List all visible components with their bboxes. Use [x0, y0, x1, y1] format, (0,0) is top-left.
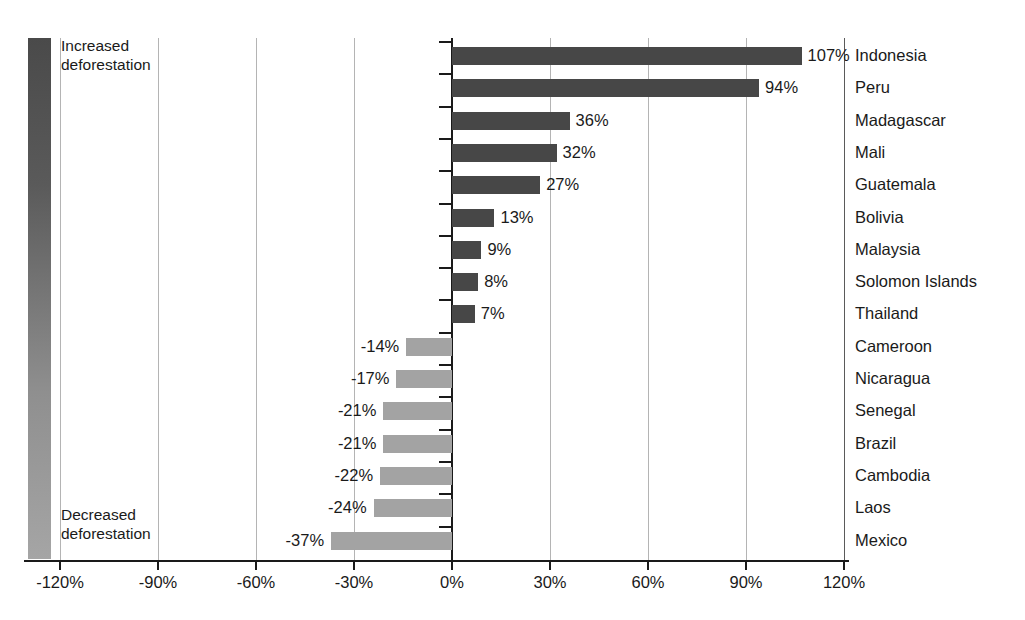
- category-tick: [439, 203, 452, 205]
- bar-row[interactable]: 32%Mali: [0, 138, 1025, 170]
- bar-negative[interactable]: [406, 338, 452, 356]
- category-tick: [439, 170, 452, 172]
- bar-row[interactable]: -17%Nicaragua: [0, 364, 1025, 396]
- category-tick: [439, 364, 452, 366]
- category-label: Mexico: [855, 530, 907, 551]
- bar-row[interactable]: -24%Laos: [0, 493, 1025, 525]
- category-tick: [439, 106, 452, 108]
- bar-negative[interactable]: [396, 370, 452, 388]
- category-label: Laos: [855, 497, 891, 518]
- category-label: Nicaragua: [855, 368, 930, 389]
- bar-negative[interactable]: [383, 402, 452, 420]
- category-label: Indonesia: [855, 45, 927, 66]
- x-axis-tick-30: [549, 561, 551, 570]
- category-label: Thailand: [855, 303, 918, 324]
- bar-positive[interactable]: [452, 305, 475, 323]
- x-axis-tick-label: -90%: [139, 573, 178, 592]
- bar-positive[interactable]: [452, 209, 494, 227]
- bar-value-label: -21%: [338, 400, 377, 421]
- category-tick: [439, 73, 452, 75]
- category-label: Brazil: [855, 433, 896, 454]
- category-label: Cambodia: [855, 465, 930, 486]
- bar-value-label: -37%: [286, 530, 325, 551]
- category-label: Malaysia: [855, 239, 920, 260]
- category-tick: [439, 267, 452, 269]
- category-tick: [439, 235, 452, 237]
- bar-value-label: 94%: [765, 77, 798, 98]
- bar-positive[interactable]: [452, 112, 570, 130]
- deforestation-change-bar-chart: Increased deforestation Decreased defore…: [0, 0, 1025, 620]
- x-axis-tick-label: 60%: [631, 573, 664, 592]
- category-tick: [439, 332, 452, 334]
- category-tick: [439, 493, 452, 495]
- bar-row[interactable]: 7%Thailand: [0, 299, 1025, 331]
- category-tick: [439, 429, 452, 431]
- x-axis-tick--30: [353, 561, 355, 570]
- bar-negative[interactable]: [380, 467, 452, 485]
- x-axis-line: [24, 560, 849, 562]
- bar-row[interactable]: 107%Indonesia: [0, 41, 1025, 73]
- bar-positive[interactable]: [452, 144, 557, 162]
- category-tick: [439, 461, 452, 463]
- x-axis-tick-0: [451, 561, 453, 570]
- bar-value-label: 107%: [808, 45, 850, 66]
- x-axis-tick-120: [843, 561, 845, 570]
- bar-value-label: 36%: [576, 110, 609, 131]
- bar-value-label: 13%: [500, 207, 533, 228]
- x-axis-tick-label: 0%: [440, 573, 464, 592]
- x-axis-tick-label: 90%: [729, 573, 762, 592]
- bar-row[interactable]: -21%Brazil: [0, 429, 1025, 461]
- bar-positive[interactable]: [452, 273, 478, 291]
- bar-row[interactable]: 36%Madagascar: [0, 106, 1025, 138]
- category-tick: [439, 299, 452, 301]
- x-axis-tick-label: 120%: [823, 573, 865, 592]
- bar-value-label: 8%: [484, 271, 508, 292]
- bar-positive[interactable]: [452, 47, 802, 65]
- bar-positive[interactable]: [452, 79, 759, 97]
- bar-positive[interactable]: [452, 176, 540, 194]
- category-label: Guatemala: [855, 174, 936, 195]
- bar-positive[interactable]: [452, 241, 481, 259]
- bar-value-label: 7%: [481, 303, 505, 324]
- category-tick: [439, 396, 452, 398]
- category-label: Solomon Islands: [855, 271, 977, 292]
- bar-row[interactable]: 9%Malaysia: [0, 235, 1025, 267]
- x-axis-tick--120: [59, 561, 61, 570]
- bar-value-label: -24%: [328, 497, 367, 518]
- bar-value-label: -17%: [351, 368, 390, 389]
- bar-value-label: 27%: [546, 174, 579, 195]
- bar-negative[interactable]: [374, 499, 452, 517]
- category-label: Peru: [855, 77, 890, 98]
- x-axis-tick--60: [255, 561, 257, 570]
- bar-value-label: -14%: [361, 336, 400, 357]
- bar-row[interactable]: 8%Solomon Islands: [0, 267, 1025, 299]
- category-label: Cameroon: [855, 336, 932, 357]
- bar-negative[interactable]: [331, 532, 452, 550]
- category-tick: [439, 526, 452, 528]
- bar-value-label: -21%: [338, 433, 377, 454]
- bar-value-label: -22%: [335, 465, 374, 486]
- x-axis-tick-label: -30%: [335, 573, 374, 592]
- bar-row[interactable]: -14%Cameroon: [0, 332, 1025, 364]
- bar-row[interactable]: -21%Senegal: [0, 396, 1025, 428]
- plot-area: Increased deforestation Decreased defore…: [0, 0, 1025, 620]
- x-axis-tick-label: 30%: [533, 573, 566, 592]
- bar-negative[interactable]: [383, 435, 452, 453]
- bar-row[interactable]: 94%Peru: [0, 73, 1025, 105]
- bar-row[interactable]: 27%Guatemala: [0, 170, 1025, 202]
- bar-row[interactable]: 13%Bolivia: [0, 203, 1025, 235]
- bar-value-label: 32%: [563, 142, 596, 163]
- category-label: Senegal: [855, 400, 916, 421]
- category-label: Madagascar: [855, 110, 946, 131]
- x-axis-tick-60: [647, 561, 649, 570]
- category-tick: [439, 138, 452, 140]
- bar-row[interactable]: -22%Cambodia: [0, 461, 1025, 493]
- category-label: Mali: [855, 142, 885, 163]
- x-axis-tick--90: [157, 561, 159, 570]
- x-axis-tick-label: -60%: [237, 573, 276, 592]
- x-axis-tick-90: [745, 561, 747, 570]
- bar-row[interactable]: -37%Mexico: [0, 526, 1025, 558]
- category-tick: [439, 41, 452, 43]
- bar-value-label: 9%: [487, 239, 511, 260]
- x-axis-tick-label: -120%: [36, 573, 84, 592]
